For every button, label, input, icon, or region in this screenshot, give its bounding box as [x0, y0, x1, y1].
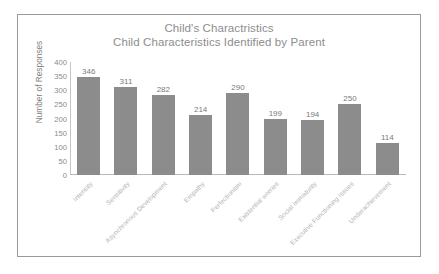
bar-value-label: 282 [145, 85, 182, 94]
bar[interactable] [226, 93, 249, 175]
bar-series: 346311282214290199194250114 [70, 62, 406, 175]
bar-value-label: 214 [182, 105, 219, 114]
x-axis-category-labels: IntensitySensitivityAsynchronous Develop… [70, 177, 406, 257]
category-slot: Asynchronous Development [145, 177, 182, 257]
bar-slot: 250 [331, 62, 368, 175]
bar[interactable] [77, 77, 100, 175]
bar-value-label: 194 [294, 110, 331, 119]
bar-value-label: 250 [331, 94, 368, 103]
y-axis-tick-label: 0 [63, 171, 67, 180]
y-axis-tick-label: 150 [54, 128, 67, 137]
y-axis-tick-label: 250 [54, 100, 67, 109]
x-axis-category-label: Sensitivity [105, 180, 131, 206]
bar-value-label: 346 [70, 67, 107, 76]
bar-slot: 114 [369, 62, 406, 175]
bar[interactable] [152, 95, 175, 175]
category-slot: Underachievement [369, 177, 406, 257]
bar[interactable] [301, 120, 324, 175]
bar[interactable] [264, 119, 287, 175]
x-axis-category-label: Empathy [182, 180, 206, 204]
category-slot: Existential worries [257, 177, 294, 257]
bar[interactable] [189, 115, 212, 175]
y-axis-tick-label: 100 [54, 142, 67, 151]
bar[interactable] [114, 87, 137, 175]
bar-value-label: 311 [107, 77, 144, 86]
plot-area: 400350300250200150100500 346311282214290… [70, 62, 406, 175]
bar-value-label: 199 [257, 109, 294, 118]
x-axis-category-label: Intensity [71, 180, 94, 203]
bar-value-label: 114 [369, 133, 406, 142]
bar-slot: 346 [70, 62, 107, 175]
bar-value-label: 290 [219, 83, 256, 92]
y-axis-title: Number of Responses [34, 23, 44, 141]
category-slot: Intensity [70, 177, 107, 257]
bar-slot: 214 [182, 62, 219, 175]
chart-subtitle: Child Characteristics Identified by Pare… [18, 35, 420, 49]
category-slot: Empathy [182, 177, 219, 257]
chart-title-block: Child's Charactristics Child Characteris… [18, 21, 420, 49]
bar-slot: 290 [219, 62, 256, 175]
bar-slot: 282 [145, 62, 182, 175]
y-axis-tick-label: 200 [54, 114, 67, 123]
bar-slot: 194 [294, 62, 331, 175]
bar-slot: 199 [257, 62, 294, 175]
y-axis-tick-label: 400 [54, 58, 67, 67]
y-axis-tick-label: 50 [59, 156, 67, 165]
chart-container: Child's Charactristics Child Characteris… [17, 14, 421, 257]
y-axis-tick-label: 300 [54, 86, 67, 95]
bar-slot: 311 [107, 62, 144, 175]
chart-title: Child's Charactristics [18, 21, 420, 35]
bar[interactable] [376, 143, 399, 175]
bar[interactable] [338, 104, 361, 175]
y-axis-tick-label: 350 [54, 72, 67, 81]
